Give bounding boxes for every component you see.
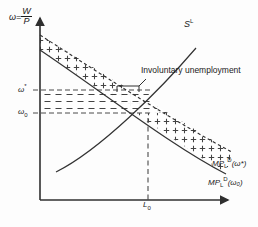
tick-label-omega-star: ω* [18,83,27,94]
omega-zero-subscript: 0 [24,112,27,118]
tick-label-omega-zero: ω0 [18,108,28,118]
y-axis-variable: ω [9,12,16,22]
curve-label-demand-omega-star: MPLD(ω*) [212,157,246,169]
mp2-subscript: L [220,182,223,188]
diagram-canvas [0,0,258,227]
mp1-argument: (ω*) [232,159,247,168]
omega-star-superscript: * [24,83,26,89]
mp2-base: MP [208,178,220,187]
L0-subscript: 0 [147,205,150,211]
labour-market-diagram: ω=WP ω* ω0 L0 SL Involuntary unemploymen… [0,0,258,227]
curve-label-demand-omega-zero: MPLD(ω₀) [208,176,243,188]
region-dashed-band [41,90,160,113]
mp1-base: MP [212,159,224,168]
annotation-involuntary-unemployment: Involuntary unemployment [141,66,241,75]
y-axis-denominator: P [21,17,32,26]
y-axis-label: ω=WP [9,8,32,28]
tick-label-L0: L0 [143,201,151,211]
y-axis-fraction: WP [21,7,32,27]
mp1-subscript: L [224,163,227,169]
mp2-argument: (ω₀) [228,178,243,187]
supply-label-superscript: L [190,18,193,24]
curve-label-labour-supply: SL [184,18,193,29]
